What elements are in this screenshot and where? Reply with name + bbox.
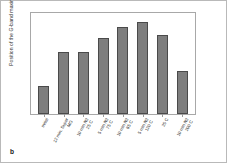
bar-slot <box>172 13 192 114</box>
figure-panel: Position of the G-band maximum (nm) 6106… <box>0 0 227 163</box>
bar <box>177 71 188 114</box>
bar <box>157 35 168 114</box>
bar <box>98 38 109 114</box>
bar-slot <box>133 13 153 114</box>
bar <box>38 86 49 114</box>
bar-slot <box>54 13 74 114</box>
bar-slot <box>74 13 94 114</box>
y-axis-title: Position of the G-band maximum (nm) <box>8 0 14 75</box>
bar-slot <box>93 13 113 114</box>
plot-area <box>30 12 196 115</box>
x-axis-labels: initial12 min. Super MG10 min N2 25 C5 m… <box>30 116 196 160</box>
x-label-slot: 10 min N2 200 C <box>173 116 193 160</box>
panel-letter-label: b <box>10 148 14 155</box>
bar <box>58 52 69 114</box>
bar-slot <box>153 13 173 114</box>
bar <box>137 22 148 114</box>
bar-series <box>31 13 195 114</box>
bar-slot <box>113 13 133 114</box>
bar <box>78 52 89 114</box>
bar-slot <box>34 13 54 114</box>
bar <box>117 27 128 114</box>
